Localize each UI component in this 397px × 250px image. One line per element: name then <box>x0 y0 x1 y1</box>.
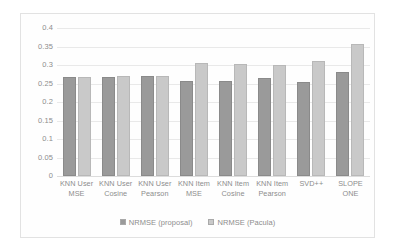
x-axis-tick-line: SVD++ <box>293 179 330 189</box>
x-axis-tick-line: Pearson <box>254 189 291 199</box>
bar[interactable] <box>117 76 130 176</box>
chart-legend: NRMSE (proposal)NRMSE (Pacula) <box>21 214 374 230</box>
bar[interactable] <box>312 61 325 176</box>
y-axis-tick-label: 0.15 <box>38 117 53 125</box>
bar-series-container <box>57 28 370 176</box>
bar-group <box>174 28 213 176</box>
x-axis-tick-line: KNN Item <box>215 179 252 189</box>
x-axis-tick-line: KNN Item <box>254 179 291 189</box>
bar[interactable] <box>180 81 193 176</box>
bar[interactable] <box>63 77 76 176</box>
legend-swatch-icon <box>208 219 214 225</box>
legend-label: NRMSE (proposal) <box>129 218 193 227</box>
legend-item[interactable]: NRMSE (Pacula) <box>208 218 275 227</box>
bar[interactable] <box>258 78 271 176</box>
y-axis-tick-label: 0 <box>49 172 53 180</box>
bar[interactable] <box>336 72 349 176</box>
x-axis-tick-line: KNN User <box>58 179 95 189</box>
x-axis-tick-line: Pearson <box>136 189 173 199</box>
x-axis-tick-label: KNN UserMSE <box>57 179 96 211</box>
bar[interactable] <box>273 65 286 176</box>
y-axis: 00.050.10.150.20.250.30.350.4 <box>21 14 56 239</box>
y-axis-tick-label: 0.1 <box>42 135 53 143</box>
chart-container: 00.050.10.150.20.250.30.350.4 KNN UserMS… <box>20 13 375 238</box>
legend-swatch-icon <box>120 219 126 225</box>
plot-area <box>57 28 370 176</box>
bar-group <box>253 28 292 176</box>
x-axis-tick-line: SLOPE <box>332 179 369 189</box>
x-axis-tick-label: KNN ItemMSE <box>174 179 213 211</box>
legend-label: NRMSE (Pacula) <box>217 218 275 227</box>
bar[interactable] <box>351 44 364 176</box>
x-axis-tick-line: MSE <box>175 189 212 199</box>
x-axis: KNN UserMSEKNN UserCosineKNN UserPearson… <box>57 179 370 211</box>
bar-group <box>135 28 174 176</box>
x-axis-tick-line <box>293 189 330 199</box>
bar-group <box>331 28 370 176</box>
y-axis-tick-label: 0.25 <box>38 80 53 88</box>
x-axis-tick-line: MSE <box>58 189 95 199</box>
axis-baseline <box>57 176 370 177</box>
x-axis-tick-label: SVD++ <box>292 179 331 211</box>
y-axis-tick-label: 0.4 <box>42 24 53 32</box>
bar-group <box>96 28 135 176</box>
bar[interactable] <box>78 77 91 176</box>
bar-group <box>57 28 96 176</box>
bar[interactable] <box>102 77 115 176</box>
x-axis-tick-line: KNN User <box>97 179 134 189</box>
bar-group <box>292 28 331 176</box>
bar[interactable] <box>219 81 232 176</box>
x-axis-tick-line: Cosine <box>215 189 252 199</box>
bar[interactable] <box>156 76 169 176</box>
x-axis-tick-line: Cosine <box>97 189 134 199</box>
y-axis-tick-label: 0.35 <box>38 43 53 51</box>
bar[interactable] <box>195 63 208 176</box>
bar-group <box>214 28 253 176</box>
x-axis-tick-line: ONE <box>332 189 369 199</box>
bar[interactable] <box>141 76 154 176</box>
y-axis-tick-label: 0.2 <box>42 98 53 106</box>
y-axis-tick-label: 0.05 <box>38 154 53 162</box>
y-axis-tick-label: 0.3 <box>42 61 53 69</box>
bar[interactable] <box>297 82 310 176</box>
x-axis-tick-line: KNN User <box>136 179 173 189</box>
plot-wrapper: 00.050.10.150.20.250.30.350.4 KNN UserMS… <box>21 14 374 237</box>
x-axis-tick-label: SLOPEONE <box>331 179 370 211</box>
x-axis-tick-label: KNN UserPearson <box>135 179 174 211</box>
x-axis-tick-line: KNN Item <box>175 179 212 189</box>
x-axis-tick-label: KNN ItemCosine <box>214 179 253 211</box>
x-axis-tick-label: KNN ItemPearson <box>253 179 292 211</box>
bar[interactable] <box>234 64 247 176</box>
legend-item[interactable]: NRMSE (proposal) <box>120 218 193 227</box>
x-axis-tick-label: KNN UserCosine <box>96 179 135 211</box>
